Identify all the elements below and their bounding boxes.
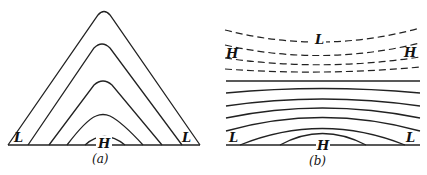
isobar-diagram: L H L (a) L H H L H L (b) [0,0,427,175]
panel-b-label-bottom-left: L [228,130,238,145]
panel-b-solid-3 [226,99,420,106]
panel-b-label-bottom-right: L [405,130,415,145]
panel-b-label-top-left: H [225,46,239,61]
panel-b-label-top-center: L [314,32,324,47]
panel-b: L H H L H L (b) [225,28,420,168]
panel-a-label-left: L [13,130,23,145]
panel-a-contour-1 [8,12,200,146]
panel-b-solid-2 [226,89,420,94]
panel-b-caption: (b) [309,154,326,168]
panel-b-label-top-right: H [403,45,417,60]
panel-a: L H L (a) [8,12,200,167]
panel-b-dashed-3 [225,57,420,65]
panel-b-dashed-4 [225,67,420,72]
panel-a-contour-2 [28,44,182,145]
panel-a-label-center: H [97,136,111,151]
panel-a-label-right: L [181,130,191,145]
panel-b-solid-4 [226,108,420,118]
panel-b-label-bottom-center: H [316,138,330,153]
panel-a-caption: (a) [92,152,109,166]
